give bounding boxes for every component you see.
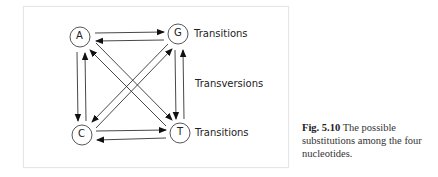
arrow-a-to-g	[95, 32, 164, 33]
arrow-t-to-g	[183, 50, 184, 119]
arrow-g-to-c	[92, 44, 168, 122]
arrow-a-to-t	[96, 43, 172, 120]
arrow-c-to-g	[96, 49, 172, 128]
arrow-g-to-t	[175, 50, 176, 119]
transitions-bottom-label: Transitions	[195, 127, 249, 138]
arrow-c-to-t	[96, 130, 166, 131]
arrow-t-to-c	[97, 138, 166, 140]
node-c-label: C	[78, 128, 85, 139]
figure-number: Fig. 5.10	[302, 122, 340, 133]
node-g-label: G	[174, 27, 182, 38]
arrow-g-to-a	[96, 40, 164, 41]
figure-caption: Fig. 5.10 The possible substitutions amo…	[302, 121, 438, 160]
arrow-t-to-a	[90, 50, 166, 126]
arrow-c-to-a	[85, 53, 86, 121]
arrow-a-to-c	[77, 52, 78, 121]
node-a-label: A	[76, 30, 83, 41]
node-t-label: T	[177, 126, 183, 137]
transversions-label: Transversions	[195, 78, 263, 89]
transitions-top-label: Transitions	[194, 28, 248, 39]
